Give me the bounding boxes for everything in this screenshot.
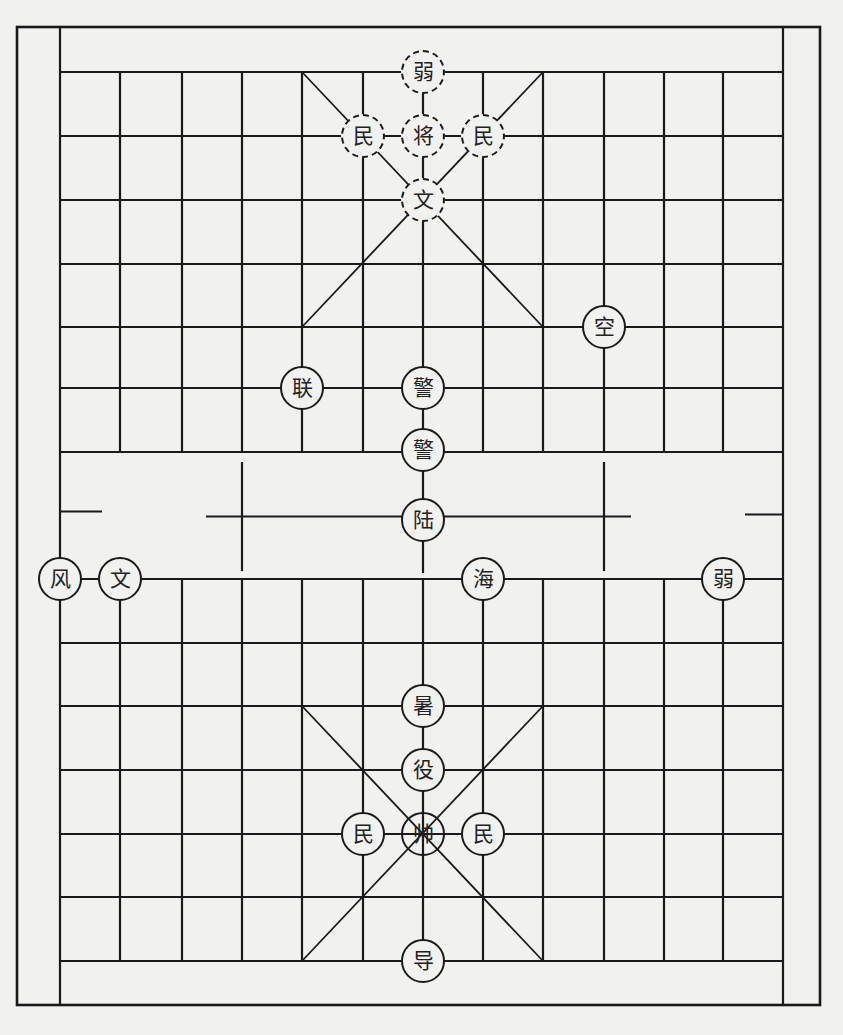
piece-bottom[interactable]: 陆	[401, 498, 445, 542]
piece-top[interactable]: 民	[461, 114, 505, 158]
piece-top[interactable]: 弱	[401, 50, 445, 94]
piece-bottom[interactable]: 警	[401, 428, 445, 472]
piece-bottom[interactable]: 弱	[701, 557, 745, 601]
piece-label: 联	[292, 378, 313, 399]
piece-label: 弱	[713, 569, 734, 590]
piece-bottom[interactable]: 联	[280, 366, 324, 410]
piece-label: 风	[50, 569, 71, 590]
piece-label: 海	[473, 569, 494, 590]
piece-label: 暑	[413, 696, 434, 717]
piece-top[interactable]: 文	[401, 178, 445, 222]
piece-label: 导	[413, 951, 434, 972]
piece-bottom[interactable]: 警	[401, 366, 445, 410]
piece-label: 民	[353, 126, 374, 147]
piece-bottom[interactable]: 暑	[401, 684, 445, 728]
piece-top[interactable]: 将	[401, 114, 445, 158]
piece-bottom[interactable]: 空	[582, 305, 626, 349]
piece-bottom[interactable]: 民	[461, 812, 505, 856]
piece-bottom[interactable]: 风	[38, 557, 82, 601]
piece-bottom[interactable]: 海	[461, 557, 505, 601]
piece-label: 空	[594, 317, 615, 338]
piece-label: 民	[353, 824, 374, 845]
piece-label: 役	[413, 760, 434, 781]
piece-label: 民	[473, 824, 494, 845]
piece-label: 将	[413, 126, 434, 147]
piece-label: 陆	[413, 510, 434, 531]
piece-bottom[interactable]: 役	[401, 748, 445, 792]
piece-label: 文	[413, 190, 434, 211]
piece-label: 帅	[413, 824, 434, 845]
game-board: 弱民将民文空联警警陆风文海弱暑役民帅民导	[0, 0, 843, 1035]
piece-label: 民	[473, 126, 494, 147]
piece-label: 弱	[413, 62, 434, 83]
piece-label: 警	[413, 440, 434, 461]
piece-bottom[interactable]: 帅	[401, 812, 445, 856]
piece-label: 警	[413, 378, 434, 399]
piece-bottom[interactable]: 导	[401, 939, 445, 983]
piece-top[interactable]: 民	[341, 114, 385, 158]
piece-label: 文	[110, 569, 131, 590]
piece-bottom[interactable]: 文	[98, 557, 142, 601]
piece-bottom[interactable]: 民	[341, 812, 385, 856]
